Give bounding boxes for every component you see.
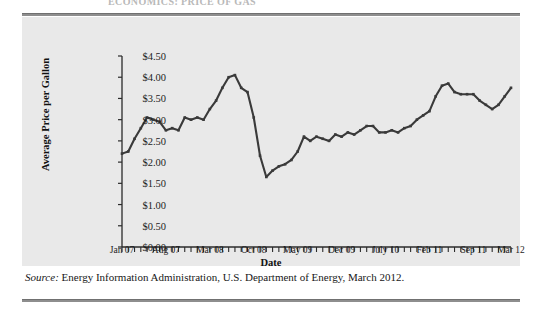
y-axis-tick-label: $2.00 xyxy=(122,157,166,168)
data-point xyxy=(353,133,356,136)
data-point xyxy=(347,131,350,134)
data-point xyxy=(284,163,287,166)
x-axis-tick-label: Feb 11 xyxy=(417,245,443,255)
source-text: Energy Information Administration, U.S. … xyxy=(59,271,404,283)
data-point xyxy=(209,108,212,111)
figure-block: $0.00$0.50$1.00$1.50$2.00$2.50$3.00$3.50… xyxy=(22,13,520,302)
x-axis-tick-label: Jan 07 xyxy=(110,245,135,255)
y-axis-tick-label: $3.50 xyxy=(122,93,166,104)
chart-plot-area xyxy=(22,17,520,266)
data-point xyxy=(397,131,400,134)
y-axis-tick-label: $0.50 xyxy=(122,220,166,231)
data-point xyxy=(265,176,268,179)
data-point xyxy=(202,118,205,121)
x-axis-tick-label: Dec 09 xyxy=(328,245,355,255)
data-point xyxy=(390,129,393,132)
x-axis-tick-label: Mar 08 xyxy=(196,245,224,255)
x-axis-tick-label: May 09 xyxy=(283,245,312,255)
data-point xyxy=(503,95,506,98)
data-point xyxy=(447,82,450,85)
data-point xyxy=(466,93,469,96)
x-axis-ticks xyxy=(122,247,511,252)
data-point xyxy=(240,87,243,90)
data-point xyxy=(177,129,180,132)
data-point xyxy=(460,93,463,96)
data-point xyxy=(328,140,331,143)
y-axis-tick-label: $1.50 xyxy=(122,178,166,189)
x-axis-tick-label: July 10 xyxy=(372,245,400,255)
data-point xyxy=(171,127,174,130)
data-point xyxy=(478,99,481,102)
data-point xyxy=(190,118,193,121)
line-chart-svg xyxy=(22,17,520,266)
x-axis-tick-label: Sep 11 xyxy=(460,245,486,255)
data-point xyxy=(409,125,412,128)
y-axis-tick-label: $2.50 xyxy=(122,135,166,146)
data-point xyxy=(246,91,249,94)
data-point xyxy=(384,131,387,134)
data-point xyxy=(303,135,306,138)
y-axis-tick-label: $4.00 xyxy=(122,72,166,83)
cutoff-title: ECONOMICS: PRICE OF GAS xyxy=(108,0,308,5)
data-point xyxy=(271,169,274,172)
figure-top-rule xyxy=(22,13,520,16)
data-point xyxy=(403,127,406,130)
data-point xyxy=(434,95,437,98)
data-point xyxy=(472,93,475,96)
data-point xyxy=(165,129,168,132)
data-point xyxy=(334,133,337,136)
data-point xyxy=(428,110,431,113)
source-label: Source: xyxy=(25,271,59,283)
data-point xyxy=(340,135,343,138)
data-point xyxy=(453,91,456,94)
data-point xyxy=(365,125,368,128)
data-point xyxy=(234,74,237,77)
x-axis-tick-label: Oct 08 xyxy=(241,245,267,255)
data-point xyxy=(221,87,224,90)
data-point xyxy=(321,137,324,140)
price-series-line xyxy=(122,75,511,177)
data-point xyxy=(252,116,255,119)
x-axis-tick-label: Aug 07 xyxy=(152,245,180,255)
data-point xyxy=(485,104,488,107)
data-point xyxy=(315,135,318,138)
data-point xyxy=(278,165,281,168)
data-point xyxy=(372,125,375,128)
data-point xyxy=(127,150,130,153)
data-point xyxy=(296,150,299,153)
data-point xyxy=(183,116,186,119)
data-point xyxy=(121,152,124,155)
y-axis-tick-label: $4.50 xyxy=(122,51,166,62)
data-point xyxy=(309,140,312,143)
data-point xyxy=(290,159,293,162)
y-axis-tick-label: $1.00 xyxy=(122,199,166,210)
data-point xyxy=(359,129,362,132)
data-point xyxy=(259,154,262,157)
data-point xyxy=(491,108,494,111)
x-axis-tick-label: Mar 12 xyxy=(497,245,525,255)
figure-bottom-rule xyxy=(22,299,520,302)
data-point xyxy=(378,131,381,134)
data-point xyxy=(422,114,425,117)
data-point xyxy=(196,116,199,119)
data-point xyxy=(497,104,500,107)
x-axis-title: Date xyxy=(22,257,520,268)
data-point xyxy=(140,127,143,130)
data-point xyxy=(510,87,513,90)
data-point xyxy=(227,76,230,79)
data-point xyxy=(215,99,218,102)
chart-panel: $0.00$0.50$1.00$1.50$2.00$2.50$3.00$3.50… xyxy=(22,17,520,266)
y-axis-tick-label: $3.00 xyxy=(122,114,166,125)
source-note: Source: Energy Information Administratio… xyxy=(25,271,404,283)
data-point xyxy=(416,118,419,121)
y-axis-title: Average Price per Gallon xyxy=(40,40,51,190)
data-point xyxy=(441,84,444,87)
